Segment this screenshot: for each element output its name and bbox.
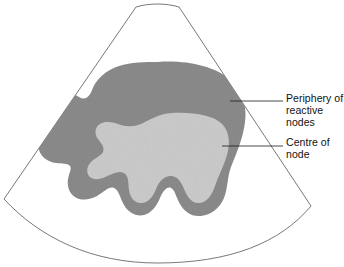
ultrasound-node-diagram: Periphery of reactive nodes Centre of no… xyxy=(0,0,344,267)
diagram-canvas xyxy=(0,0,344,267)
